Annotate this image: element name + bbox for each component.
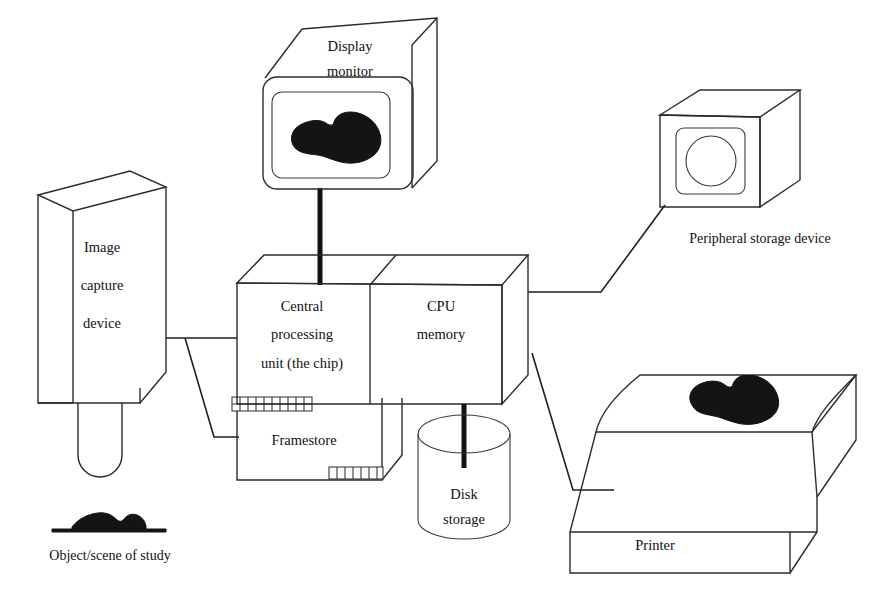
connection-cpu-memory-to-peripheral-storage bbox=[528, 205, 665, 292]
printer-blob-icon bbox=[690, 375, 779, 425]
disk-storage-label-line1: Disk bbox=[450, 486, 478, 502]
cpu-memory-divider-top bbox=[370, 255, 396, 285]
image-capture-label-line1: Image bbox=[84, 239, 120, 255]
connection-cpu-memory-to-printer bbox=[532, 353, 614, 490]
printer-body-base bbox=[570, 532, 790, 573]
image-capture-device[interactable]: Image capture device bbox=[38, 171, 166, 477]
cpu-memory-label-line1: CPU bbox=[427, 298, 456, 314]
display-monitor-label-line1: Display bbox=[327, 38, 373, 54]
system-diagram: Display monitor Image capture device bbox=[0, 0, 886, 600]
printer-label: Printer bbox=[635, 537, 675, 553]
object-scene-of-study[interactable]: Object/scene of study bbox=[49, 513, 170, 563]
peripheral-storage-label: Peripheral storage device bbox=[689, 231, 831, 246]
cpu-label-line1: Central bbox=[281, 298, 324, 314]
cpu-label-line2: processing bbox=[271, 326, 333, 342]
disk-storage-label-line2: storage bbox=[443, 511, 485, 527]
camera-lens-icon bbox=[78, 403, 122, 477]
image-capture-label-line2: capture bbox=[81, 277, 124, 293]
central-processing-cube[interactable]: Central processing unit (the chip) CPU m… bbox=[237, 255, 528, 404]
cpu-memory-label-line2: memory bbox=[417, 326, 466, 342]
framestore[interactable]: Framestore bbox=[232, 397, 402, 480]
printer-body-front bbox=[570, 432, 817, 532]
specimen-baseline bbox=[52, 529, 166, 532]
display-monitor-label-line2: monitor bbox=[327, 63, 373, 79]
cpu-label-line3: unit (the chip) bbox=[261, 355, 343, 372]
display-monitor[interactable]: Display monitor bbox=[263, 18, 437, 285]
peripheral-storage-device[interactable]: Peripheral storage device bbox=[660, 90, 831, 246]
framestore-label: Framestore bbox=[271, 432, 336, 448]
monitor-blob-icon bbox=[291, 112, 380, 163]
disk-storage[interactable]: Disk storage bbox=[418, 404, 510, 539]
printer[interactable]: Printer bbox=[570, 375, 856, 573]
drive-disc-icon bbox=[686, 136, 736, 186]
specimen-blob-icon bbox=[72, 513, 146, 529]
cpu-box-right-face bbox=[502, 255, 528, 404]
image-capture-label-line3: device bbox=[83, 315, 121, 331]
object-scene-label: Object/scene of study bbox=[49, 548, 170, 563]
connection-image-capture-to-framestore bbox=[185, 338, 239, 437]
framestore-chip-comb-bottom bbox=[329, 467, 383, 479]
diagram-canvas: Display monitor Image capture device bbox=[0, 0, 886, 600]
